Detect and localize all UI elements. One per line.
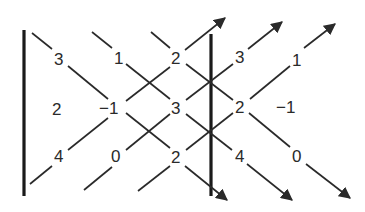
cell-r2c4: 2 bbox=[235, 98, 244, 117]
down-diagonal-3 bbox=[151, 32, 350, 198]
cell-r2c5: −1 bbox=[276, 98, 295, 117]
cell-r3c3: 2 bbox=[171, 148, 180, 167]
cell-r3c1: 4 bbox=[54, 147, 63, 166]
cell-r1c1: 3 bbox=[54, 50, 63, 69]
cell-r3c5: 0 bbox=[292, 147, 301, 166]
cell-r2c1: 2 bbox=[52, 100, 61, 119]
cell-r3c4: 4 bbox=[235, 147, 244, 166]
cell-r1c5: 1 bbox=[292, 51, 301, 70]
cell-r2c3: 3 bbox=[171, 99, 180, 118]
sarrus-diagram: 3 1 2 3 1 2 −1 3 2 −1 4 0 2 4 0 bbox=[0, 0, 365, 212]
cell-r2c2: −1 bbox=[99, 99, 118, 118]
cell-r1c3: 2 bbox=[171, 49, 180, 68]
cell-r3c2: 0 bbox=[111, 147, 120, 166]
cell-r1c2: 1 bbox=[114, 49, 123, 68]
cell-r1c4: 3 bbox=[235, 48, 244, 67]
